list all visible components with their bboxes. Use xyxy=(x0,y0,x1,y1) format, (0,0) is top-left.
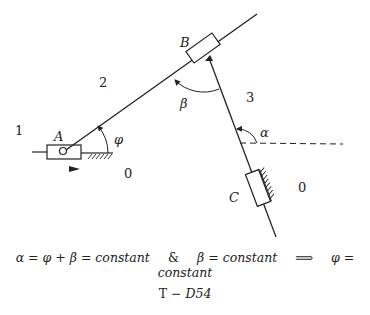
alpha-reference-dashed-line xyxy=(240,143,343,144)
caption-prefix: T − xyxy=(159,286,186,301)
label-ground-right: 0 xyxy=(298,180,306,195)
equation-part-1: α = φ + β = constant xyxy=(16,250,150,265)
label-link-2: 2 xyxy=(99,75,107,90)
label-alpha: α xyxy=(260,125,269,140)
joint-b-marker xyxy=(205,55,213,61)
constraint-equation: α = φ + β = constant & β = constant ⟹ φ … xyxy=(0,250,370,280)
beta-angle-arc xyxy=(175,80,219,92)
pin-a xyxy=(60,148,67,155)
caption-id: D54 xyxy=(185,286,211,301)
link-2 xyxy=(66,14,257,150)
label-link-3: 3 xyxy=(246,90,254,105)
slider-b xyxy=(186,33,220,63)
link-3 xyxy=(209,58,276,237)
label-phi: φ xyxy=(114,132,124,147)
slide-direction-arrow-icon xyxy=(69,166,80,172)
label-link-1: 1 xyxy=(15,123,23,138)
equation-and: & xyxy=(168,250,179,265)
label-ground-left: 0 xyxy=(124,166,132,181)
ground-hatch-a xyxy=(88,154,112,159)
figure-caption: T − D54 xyxy=(0,286,370,301)
equation-part-2: β = constant xyxy=(197,250,277,265)
phi-angle-arc xyxy=(98,126,108,153)
equation-implies: ⟹ xyxy=(295,250,313,265)
label-beta: β xyxy=(179,96,188,111)
label-c: C xyxy=(229,190,239,205)
label-a: A xyxy=(53,129,63,144)
label-b: B xyxy=(179,35,190,50)
